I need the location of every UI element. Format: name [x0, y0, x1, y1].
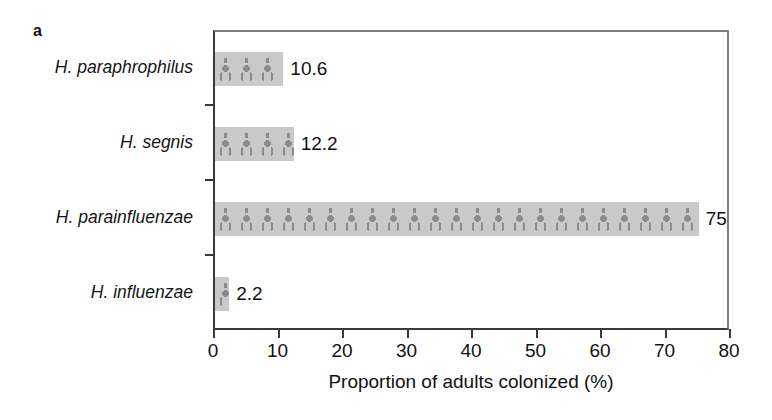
bar-value-label-2: 75	[699, 202, 727, 236]
figure-panel-a: a H. paraphrophilus H. segnis H. parainf…	[0, 0, 772, 420]
x-axis-tick-3	[407, 329, 409, 338]
bar-row-2: 75	[215, 182, 727, 257]
x-axis-tick-0	[213, 329, 215, 338]
bar-row-3: 2.2	[215, 257, 727, 332]
x-axis-tick-label-1: 10	[267, 340, 288, 362]
bar-value-label-1: 12.2	[294, 127, 338, 161]
bar-3[interactable]	[215, 277, 229, 311]
y-axis-label-2: H. parainfluenzae	[56, 180, 193, 255]
bar-value-label-3: 2.2	[229, 277, 262, 311]
bar-row-1: 12.2	[215, 107, 727, 182]
y-axis-label-1: H. segnis	[120, 105, 193, 180]
bar-1[interactable]	[215, 127, 294, 161]
x-axis-tick-label-4: 40	[460, 340, 481, 362]
x-axis-tick-label-2: 20	[331, 340, 352, 362]
x-axis-tick-label-0: 0	[208, 340, 219, 362]
y-axis-labels: H. paraphrophilus H. segnis H. parainflu…	[0, 30, 203, 330]
x-axis-tick-2	[342, 329, 344, 338]
x-axis-tick-label-6: 60	[589, 340, 610, 362]
bar-0[interactable]	[215, 52, 283, 86]
y-axis-label-3: H. influenzae	[91, 255, 193, 330]
x-axis-tick-7	[665, 329, 667, 338]
x-axis-tick-6	[600, 329, 602, 338]
x-axis-tick-8	[729, 329, 731, 338]
x-axis-tick-label-7: 70	[654, 340, 675, 362]
x-axis-tick-label-8: 80	[718, 340, 739, 362]
x-axis-tick-label-5: 50	[525, 340, 546, 362]
y-axis-label-0: H. paraphrophilus	[55, 30, 193, 105]
x-axis-tick-1	[278, 329, 280, 338]
x-axis-tick-label-3: 30	[396, 340, 417, 362]
plot-area: 10.6 12.2 75 2.2	[213, 30, 729, 330]
bar-row-0: 10.6	[215, 32, 727, 107]
bar-2[interactable]	[215, 202, 699, 236]
bar-value-label-0: 10.6	[283, 52, 327, 86]
x-axis-tick-4	[471, 329, 473, 338]
x-axis-tick-5	[536, 329, 538, 338]
x-axis-title: Proportion of adults colonized (%)	[213, 371, 729, 393]
